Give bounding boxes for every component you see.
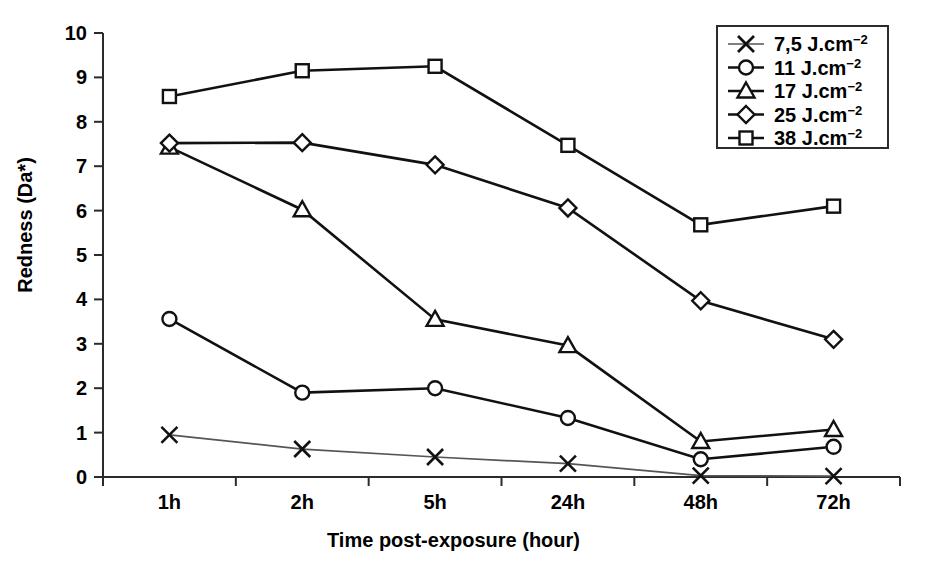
chart-container: 0123456789101h2h5h24h48h72hTime post-exp… — [0, 0, 927, 570]
data-point-diamond[interactable] — [427, 156, 444, 173]
y-axis-tick-label: 7 — [76, 155, 87, 177]
data-point-square[interactable] — [561, 139, 574, 152]
y-axis-tick-label: 1 — [76, 422, 87, 444]
y-axis-tick-label: 10 — [65, 22, 87, 44]
data-point-circle[interactable] — [295, 386, 309, 400]
y-axis-title: Redness (Da*) — [14, 157, 36, 293]
x-axis-tick-label: 2h — [291, 491, 314, 513]
y-axis-tick-label: 9 — [76, 66, 87, 88]
y-axis-tick-label: 2 — [76, 377, 87, 399]
redness-line-chart: 0123456789101h2h5h24h48h72hTime post-exp… — [0, 0, 927, 570]
x-axis-tick-label: 1h — [158, 491, 181, 513]
data-point-circle[interactable] — [561, 411, 575, 425]
data-point-diamond[interactable] — [294, 134, 311, 151]
x-axis-tick-label: 5h — [423, 491, 446, 513]
data-point-square[interactable] — [429, 60, 442, 73]
y-axis-tick-label: 8 — [76, 111, 87, 133]
series-4 — [169, 143, 833, 340]
data-point-circle[interactable] — [162, 312, 176, 326]
x-axis-tick-label: 48h — [684, 491, 718, 513]
data-point-square[interactable] — [740, 132, 753, 145]
data-point-triangle[interactable] — [294, 201, 311, 216]
series-line — [169, 147, 833, 441]
data-point-square[interactable] — [694, 218, 707, 231]
data-point-circle[interactable] — [428, 381, 442, 395]
y-axis-tick-label: 0 — [76, 466, 87, 488]
data-point-circle[interactable] — [739, 61, 753, 75]
data-point-diamond[interactable] — [825, 331, 842, 348]
x-axis-tick-label: 72h — [816, 491, 850, 513]
data-point-circle[interactable] — [827, 440, 841, 454]
data-point-diamond[interactable] — [692, 292, 709, 309]
series-line — [169, 143, 833, 340]
y-axis-tick-label: 3 — [76, 333, 87, 355]
y-axis-tick-label: 6 — [76, 200, 87, 222]
y-axis-tick-label: 5 — [76, 244, 87, 266]
x-axis-tick-label: 24h — [551, 491, 585, 513]
series-3 — [169, 147, 833, 441]
data-point-square[interactable] — [163, 90, 176, 103]
data-point-square[interactable] — [296, 64, 309, 77]
y-axis-tick-label: 4 — [76, 288, 88, 310]
x-axis-title: Time post-exposure (hour) — [327, 529, 580, 551]
data-point-circle[interactable] — [694, 452, 708, 466]
data-point-triangle[interactable] — [825, 421, 842, 436]
data-point-square[interactable] — [827, 200, 840, 213]
data-point-diamond[interactable] — [559, 199, 576, 216]
